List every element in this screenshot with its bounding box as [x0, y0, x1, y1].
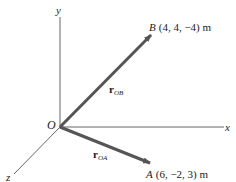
z-axis-label: z [5, 171, 11, 182]
point-a-name: A [145, 168, 153, 180]
point-a-coords: (6, −2, 3) m [156, 168, 209, 181]
vector-r-ob [60, 35, 151, 127]
x-axis-label: x [224, 121, 230, 133]
y-axis-label: y [55, 4, 61, 16]
r-ob-subscript: OB [114, 89, 124, 97]
point-a-label: A(6, −2, 3) m [145, 168, 209, 181]
origin-label: O [47, 118, 56, 132]
point-b-name: B [149, 21, 156, 33]
r-oa-subscript: OA [98, 154, 108, 162]
point-b-coords: (4, 4, −4) m [159, 21, 212, 34]
r-ob-label: rOB [109, 83, 124, 97]
z-axis [14, 127, 60, 174]
position-vector-diagram: y x z O B(4, 4, −4) m A(6, −2, 3) m rOB … [0, 0, 236, 182]
r-oa-label: rOA [93, 148, 108, 162]
point-b-label: B(4, 4, −4) m [149, 21, 212, 34]
